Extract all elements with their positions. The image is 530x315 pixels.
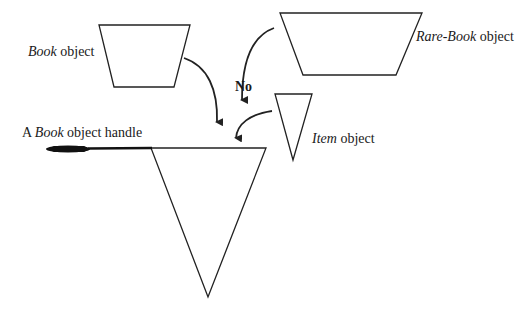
rare-book-object-shape [280,13,422,75]
rare-book-object-label: Rare-Book object [415,29,514,44]
item-object-label: Item object [311,131,375,146]
no-label: No [235,79,252,94]
object-handle-diagram: Book object Rare-Book object Item object… [0,0,530,315]
book-handle-target-shape [151,148,266,297]
book-to-handle-arrow [184,58,217,122]
item-to-handle-arrow [236,111,272,138]
handle-pointer [46,145,152,152]
book-object-shape [99,25,190,87]
book-object-label: Book object [28,44,95,59]
handle-label: A Book object handle [22,125,142,140]
item-object-shape [275,94,312,160]
